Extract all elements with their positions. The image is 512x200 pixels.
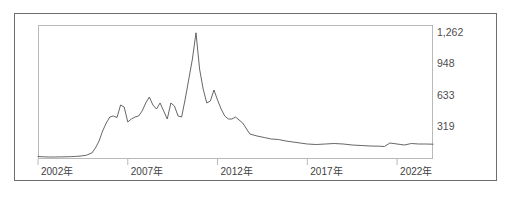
y-tick-label-1262: 1,262 (437, 27, 495, 38)
x-tick-label-2007: 2007年 (131, 163, 163, 178)
chart-figure: 1,262 948 633 319 2002年 2007年 2012年 2017… (0, 0, 512, 200)
y-tick-label-319: 319 (437, 121, 495, 132)
x-tick-label-2012: 2012年 (221, 163, 253, 178)
y-tick-label-633: 633 (437, 90, 495, 101)
y-tick-label-948: 948 (437, 58, 495, 69)
x-tick-label-2017: 2017年 (310, 163, 342, 178)
y-axis-labels: 1,262 948 633 319 (437, 25, 499, 159)
x-tick-label-2002: 2002年 (41, 163, 73, 178)
x-axis-labels: 2002年 2007年 2012年 2017年 2022年 (0, 160, 512, 182)
plot-area-frame (38, 25, 433, 159)
x-tick-label-2022: 2022年 (400, 163, 432, 178)
